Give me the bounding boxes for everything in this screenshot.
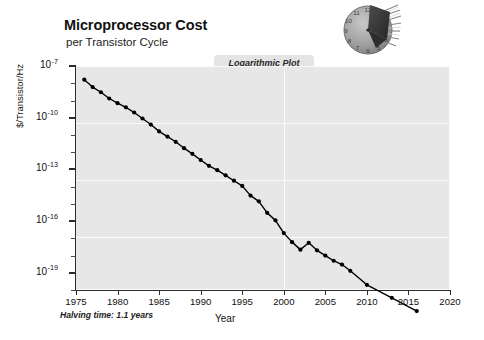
x-tick-mark (159, 290, 160, 295)
y-tick-label: 10-13 (16, 162, 58, 173)
data-point (91, 85, 95, 89)
x-tick-mark (367, 290, 368, 295)
data-point (315, 248, 319, 252)
data-point (174, 140, 178, 144)
data-point (224, 173, 228, 177)
y-tick-minor (71, 83, 76, 84)
data-point (307, 241, 311, 245)
x-tick-mark (284, 290, 285, 295)
data-point (257, 199, 261, 203)
data-point (273, 218, 277, 222)
x-tick-mark (76, 290, 77, 295)
x-tick-label: 1990 (181, 296, 221, 307)
data-point (115, 101, 119, 105)
data-point (132, 110, 136, 114)
data-point (140, 116, 144, 120)
halving-time-annotation: Halving time: 1.1 years (60, 310, 153, 320)
data-point (323, 253, 327, 257)
x-tick-label: 1975 (56, 296, 96, 307)
x-tick-mark (408, 290, 409, 295)
x-tick-label: 1980 (98, 296, 138, 307)
y-tick-mark (69, 117, 76, 119)
data-point (107, 96, 111, 100)
y-tick-minor (71, 135, 76, 136)
data-point (265, 211, 269, 215)
data-point (282, 231, 286, 235)
data-point (240, 184, 244, 188)
x-tick-label: 1985 (139, 296, 179, 307)
data-point (365, 283, 369, 287)
x-tick-label: 2000 (264, 296, 304, 307)
data-point (149, 122, 153, 126)
x-tick-mark (118, 290, 119, 295)
x-tick-mark (450, 290, 451, 295)
series-markers (82, 78, 419, 314)
x-tick-label: 2020 (430, 296, 470, 307)
x-tick-label: 2010 (347, 296, 387, 307)
y-tick-mark (69, 272, 76, 274)
y-tick-mark (69, 220, 76, 222)
x-tick-label: 1995 (222, 296, 262, 307)
data-point (124, 105, 128, 109)
y-tick-minor (71, 101, 76, 102)
data-point (248, 194, 252, 198)
x-axis-title: Year (215, 313, 235, 324)
x-tick-label: 2005 (305, 296, 345, 307)
x-tick-mark (201, 290, 202, 295)
data-point (199, 158, 203, 162)
data-point (298, 248, 302, 252)
data-point (157, 129, 161, 133)
x-tick-label: 2015 (388, 296, 428, 307)
data-point (415, 309, 419, 313)
y-axis-title: $/Transistor/Hz (14, 8, 25, 128)
data-point (340, 262, 344, 266)
data-point (348, 269, 352, 273)
data-point (290, 240, 294, 244)
y-tick-minor (71, 238, 76, 239)
x-tick-mark (242, 290, 243, 295)
y-tick-minor (71, 187, 76, 188)
data-point (232, 179, 236, 183)
data-point (215, 168, 219, 172)
y-tick-label: 10-19 (16, 266, 58, 277)
y-tick-mark (69, 168, 76, 170)
y-tick-label: 10-16 (16, 214, 58, 225)
data-point (99, 90, 103, 94)
x-tick-mark (325, 290, 326, 295)
data-point (165, 134, 169, 138)
y-tick-minor (71, 256, 76, 257)
data-point (207, 164, 211, 168)
chart-figure: Microprocessor Cost per Transistor Cycle… (0, 0, 484, 340)
data-point (182, 146, 186, 150)
data-point (190, 152, 194, 156)
data-point (82, 78, 86, 82)
y-tick-minor (71, 204, 76, 205)
y-tick-minor (71, 152, 76, 153)
y-tick-mark (69, 65, 76, 67)
data-point (332, 259, 336, 263)
